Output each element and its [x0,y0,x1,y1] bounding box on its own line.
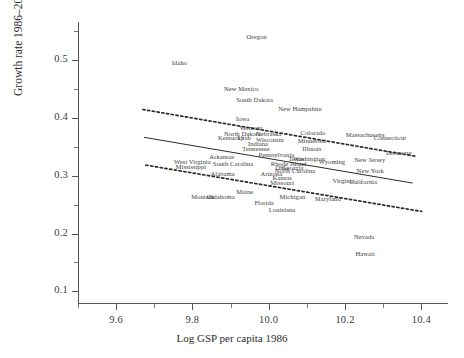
data-point-label: New Jersey [354,156,385,163]
data-point-label: Maryland [315,195,341,202]
data-point-label: Alabama [211,169,235,176]
data-point-label: Maine [236,187,253,194]
data-point-label: Oklahoma [207,192,235,199]
data-point-label: Minnesota [298,136,326,143]
data-point-label: Iowa [236,115,249,122]
data-point-label: South Dakota [236,95,273,102]
data-point-label: New York [357,166,384,173]
data-point-label: Wyoming [319,158,345,165]
fit-lines-layer [0,0,464,358]
data-point-label: Hawaii [356,249,375,256]
data-point-label: California [350,177,377,184]
data-point-label: South Carolina [213,159,253,166]
data-point-label: Mississippi [176,163,207,170]
data-point-label: Illinois [302,144,321,151]
data-point-label: New Hampshire [278,104,322,111]
data-point-label: Nevada [354,232,374,239]
data-point-label: Michigan [280,193,306,200]
scatter-plot-figure: 0.10.20.30.40.5 9.69.810.010.210.4 Growt… [0,0,464,358]
data-point-label: Idaho [172,59,187,66]
data-point-label: Florida [254,198,273,205]
data-point-label: Delaware [386,149,412,156]
data-point-label: Louisiana [269,205,295,212]
data-point-label: New Mexico [224,84,259,91]
data-point-label: Connecticut [374,134,406,141]
data-point-label: Oregon [246,32,266,39]
data-point-label: Colorado [301,128,326,135]
data-point-label: Missouri [270,178,294,185]
